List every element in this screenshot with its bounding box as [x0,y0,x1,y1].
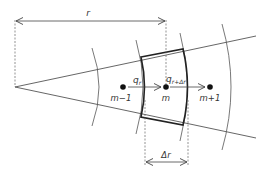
node-label-m: m [162,93,170,103]
delta-r-label: Δr [160,150,171,160]
node-m-plus-1 [207,84,213,90]
r-label: r [86,8,91,18]
node-m [163,84,169,90]
node-m-minus-1 [120,84,126,90]
q-r-dr-label: qr+Δr [166,74,186,85]
q-r-label: qr [133,75,142,86]
node-label-m-plus-1: m+1 [200,93,221,103]
node-label-m-minus-1: m−1 [111,93,132,103]
radial-control-volume-diagram: r Δr qr qr+Δr m−1 m m+1 [0,0,266,174]
arc-left-outer [92,48,99,126]
